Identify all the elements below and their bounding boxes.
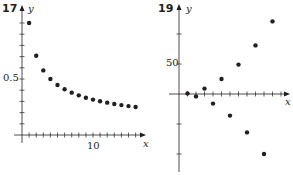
data-point [211,101,215,105]
x-axis-label: x [285,96,291,107]
y-axis-label: y [186,3,192,14]
y-axis-arrow-icon [177,4,182,10]
x-tick-label: 10 [87,140,100,151]
data-point [105,100,109,104]
scatter-plot-17 [0,0,146,175]
problem-number: 17 [2,2,17,15]
data-point [236,62,240,66]
data-point [48,77,52,81]
data-point [84,96,88,100]
y-axis-arrow-icon [20,5,25,11]
data-point [219,77,223,81]
data-point [262,152,266,156]
data-point [133,105,137,109]
y-tick-label: 50 [166,57,179,68]
data-point [245,130,249,134]
data-point [77,93,81,97]
data-point [34,54,38,58]
data-point [194,94,198,98]
scatter-plot-19 [146,0,293,175]
chart-panel-19: 19 y 50 x [146,0,293,175]
data-point [70,90,74,94]
y-axis-label: y [28,3,34,14]
data-point [91,97,95,101]
data-point [41,68,45,72]
y-tick-label: 0.5 [3,72,19,83]
chart-panel-17: 17 y 0.5 10 x [0,0,146,175]
data-point [98,99,102,103]
data-point [202,86,206,90]
data-point [253,43,257,47]
problem-number: 19 [158,2,173,15]
data-point [112,102,116,106]
data-point [126,104,130,108]
data-point [55,83,59,87]
data-point [27,21,31,25]
data-point [228,113,232,117]
data-point [270,19,274,23]
data-point [119,103,123,107]
data-point [62,87,66,91]
data-point [185,91,189,95]
